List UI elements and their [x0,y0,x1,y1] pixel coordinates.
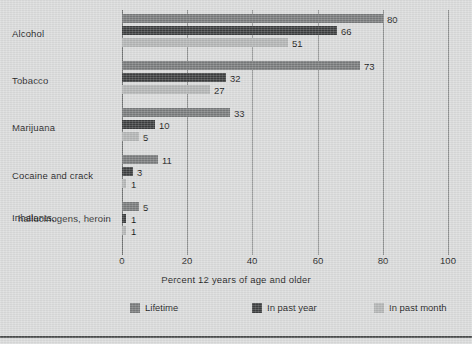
x-tick-20: 20 [182,255,193,266]
bar-tobacco-past-month [122,85,210,94]
bar-inhalants-past-month [122,226,126,235]
bar-inhalants-lifetime [122,202,139,211]
bottom-divider [0,336,472,338]
bar-cocaine-past-year [122,167,133,176]
bar-cocaine-lifetime [122,155,158,164]
bar-marijuana-past-year [122,120,155,129]
legend-item-in-past-year: In past year [252,302,317,313]
category-label-line1: Tobacco [12,75,122,86]
bar-value-inhalants-past-year: 1 [131,215,136,224]
legend-swatch-icon-in-past-year [252,303,262,313]
bar-value-inhalants-past-month: 1 [131,227,136,236]
bar-inhalants-past-year [122,214,126,223]
x-axis-tick-labels: 0 20 40 60 80 100 [122,255,448,271]
bar-marijuana-past-month [122,132,139,141]
bar-value-cocaine-lifetime: 11 [162,156,172,165]
bar-chart-figure: Alcohol Tobacco Marijuana Cocaine and cr… [0,0,472,344]
bar-marijuana-lifetime [122,108,230,117]
bar-cocaine-past-month [122,179,126,188]
chart-legend: Lifetime In past year In past month [122,302,452,316]
bar-value-tobacco-lifetime: 73 [364,62,375,71]
gridline-80 [383,10,384,255]
category-label-line2: hallucinogens, heroin [18,213,128,224]
legend-item-lifetime: Lifetime [130,302,178,313]
legend-label-in-past-year: In past year [267,302,317,313]
legend-label-lifetime: Lifetime [145,302,178,313]
legend-item-in-past-month: In past month [374,302,447,313]
bar-value-tobacco-past-month: 27 [214,86,225,95]
bar-value-alcohol-lifetime: 80 [387,15,398,24]
gridline-60 [318,10,319,255]
bar-tobacco-past-year [122,73,226,82]
bar-value-marijuana-past-month: 5 [143,133,148,142]
bar-value-tobacco-past-year: 32 [230,74,241,83]
bar-value-alcohol-past-month: 51 [292,39,303,48]
category-label-line1: Cocaine and crack [12,170,122,181]
x-tick-100: 100 [440,255,456,266]
x-tick-60: 60 [313,255,324,266]
bar-value-cocaine-past-year: 3 [137,168,142,177]
x-tick-80: 80 [378,255,389,266]
bar-alcohol-past-year [122,26,337,35]
legend-swatch-icon-in-past-month [374,303,384,313]
bar-value-alcohol-past-year: 66 [341,27,352,36]
x-tick-40: 40 [247,255,258,266]
gridline-100 [448,10,449,255]
x-axis-title: Percent 12 years of age and older [0,274,472,285]
bar-alcohol-past-month [122,38,288,47]
category-label-line1: Marijuana [12,122,122,133]
legend-label-in-past-month: In past month [389,302,447,313]
category-label-line1: Alcohol [12,28,122,39]
x-tick-0: 0 [119,255,124,266]
category-label-inhalants-hallucinogens-heroin: Inhalants, hallucinogens, heroin [18,212,122,224]
bar-value-cocaine-past-month: 1 [131,180,136,189]
legend-swatch-icon-lifetime [130,303,140,313]
bar-value-marijuana-lifetime: 33 [234,109,245,118]
plot-area: 80 66 51 73 32 27 33 10 5 11 3 1 5 1 1 [122,10,448,255]
bar-value-inhalants-lifetime: 5 [143,203,148,212]
bar-value-marijuana-past-year: 10 [159,121,170,130]
bar-alcohol-lifetime [122,14,383,23]
bar-tobacco-lifetime [122,61,360,70]
